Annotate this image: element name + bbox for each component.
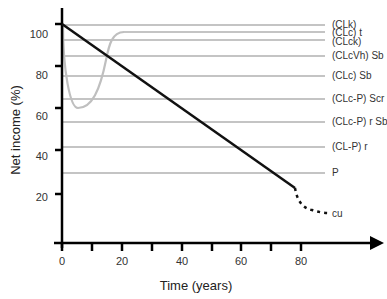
recovery-curve — [63, 25, 124, 108]
net-income-chart: 100 80 60 40 20 0 20 40 60 80 Time (year… — [0, 0, 387, 299]
x-axis-arrow-icon — [370, 236, 384, 250]
level-label-clc-p-r-sb: (CLc-P) r Sb — [332, 116, 387, 127]
y-tick-label-60: 60 — [36, 110, 48, 122]
y-tick-label-40: 40 — [36, 150, 48, 162]
y-axis-title: Net income (%) — [8, 85, 23, 175]
level-label-clc-sb: (CLc) Sb — [332, 70, 372, 81]
y-tick-label-80: 80 — [36, 69, 48, 81]
chart-canvas: 100 80 60 40 20 0 20 40 60 80 Time (year… — [0, 0, 387, 299]
decline-line — [62, 24, 295, 188]
y-tick-label-20: 20 — [36, 191, 48, 203]
level-lines — [62, 25, 325, 173]
level-label-clcvh-sb: (CLcVh) Sb — [332, 50, 384, 61]
level-label-clck: (CLck) — [332, 36, 361, 47]
x-tick-label-0: 0 — [59, 255, 65, 267]
y-tick-label-100: 100 — [30, 28, 48, 40]
level-label-p: P — [332, 167, 339, 178]
x-tick-label-80: 80 — [295, 255, 307, 267]
cu-dotted-line — [295, 188, 329, 213]
x-tick-label-60: 60 — [235, 255, 247, 267]
level-label-clc-p-scr: (CLc-P) Scr — [332, 93, 385, 104]
x-tick-label-20: 20 — [116, 255, 128, 267]
x-tick-label-40: 40 — [176, 255, 188, 267]
level-label-cl-p-r: (CL-P) r — [332, 141, 368, 152]
cu-label: cu — [332, 208, 343, 219]
x-axis-title: Time (years) — [160, 278, 232, 293]
